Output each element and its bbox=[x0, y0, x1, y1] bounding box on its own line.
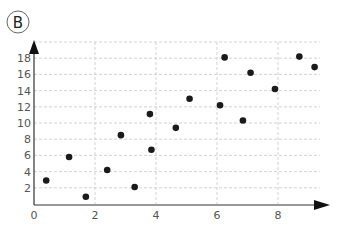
panel-label: B bbox=[13, 14, 23, 32]
y-tick-labels: 24681012141618 bbox=[17, 52, 31, 195]
data-point bbox=[240, 117, 247, 124]
y-tick-label: 18 bbox=[17, 52, 31, 65]
scatter-chart: B 02468 24681012141618 bbox=[0, 0, 361, 234]
data-point bbox=[43, 177, 50, 184]
data-point bbox=[83, 193, 90, 200]
x-tick-label: 4 bbox=[153, 209, 160, 222]
y-tick-label: 14 bbox=[17, 85, 31, 98]
x-axis-arrow-icon bbox=[314, 200, 330, 210]
y-tick-label: 6 bbox=[24, 149, 31, 162]
y-tick-label: 8 bbox=[24, 133, 31, 146]
y-tick-label: 12 bbox=[17, 101, 31, 114]
grid-lines bbox=[34, 42, 320, 204]
x-tick-label: 2 bbox=[92, 209, 99, 222]
y-tick-label: 2 bbox=[24, 182, 31, 195]
x-tick-label: 8 bbox=[275, 209, 282, 222]
data-points bbox=[43, 53, 318, 200]
axes bbox=[29, 40, 330, 210]
y-tick-label: 4 bbox=[24, 166, 31, 179]
data-point bbox=[147, 111, 154, 118]
data-point bbox=[104, 167, 111, 174]
data-point bbox=[148, 146, 155, 153]
data-point bbox=[296, 53, 303, 60]
data-point bbox=[221, 54, 228, 61]
x-tick-label: 0 bbox=[31, 209, 38, 222]
data-point bbox=[186, 95, 193, 102]
data-point bbox=[217, 102, 224, 109]
data-point bbox=[272, 86, 279, 93]
data-point bbox=[247, 69, 254, 76]
panel-badge: B bbox=[7, 11, 29, 33]
y-tick-label: 10 bbox=[17, 117, 31, 130]
data-point bbox=[173, 125, 180, 132]
y-tick-label: 16 bbox=[17, 68, 31, 81]
data-point bbox=[118, 132, 125, 139]
data-point bbox=[66, 154, 73, 161]
x-tick-label: 6 bbox=[214, 209, 221, 222]
x-tick-labels: 02468 bbox=[31, 209, 282, 222]
data-point bbox=[131, 184, 138, 191]
data-point bbox=[311, 64, 318, 71]
